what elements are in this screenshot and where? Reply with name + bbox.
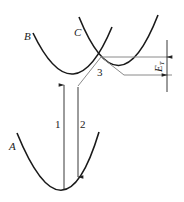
svg-text:ET: ET bbox=[152, 60, 166, 73]
curve-b-label: B bbox=[24, 30, 31, 42]
energy-gap-label: ET bbox=[152, 60, 166, 73]
curve-a-label: A bbox=[8, 140, 16, 152]
crossing-3-label: 3 bbox=[97, 66, 103, 78]
energy-gap-subscript: T bbox=[158, 60, 166, 65]
curve-a bbox=[17, 132, 99, 190]
transition-2-label: 2 bbox=[80, 118, 86, 130]
configuration-coordinate-diagram: B C A 1 2 3 ET bbox=[0, 0, 184, 202]
curve-c bbox=[79, 15, 158, 66]
curve-c-label: C bbox=[74, 26, 82, 38]
transition-1-label: 1 bbox=[55, 118, 61, 130]
